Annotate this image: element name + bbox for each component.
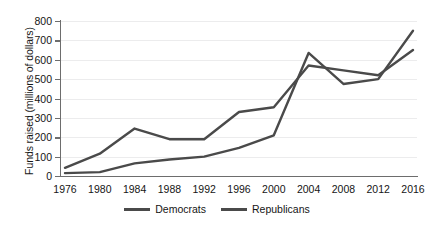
- y-axis-tick: [55, 137, 60, 138]
- y-axis-tick-label: 700: [4, 35, 52, 45]
- x-axis-line: [60, 176, 418, 177]
- legend-item-democrats[interactable]: Democrats: [124, 203, 206, 215]
- y-axis-tick: [55, 60, 60, 61]
- y-axis-tick-label: 0: [4, 171, 52, 181]
- y-axis-tick-labels: 0100200300400500600700800: [0, 0, 52, 233]
- legend-label: Democrats: [155, 203, 206, 215]
- legend-swatch-icon: [124, 208, 150, 211]
- y-axis-tick-label: 400: [4, 94, 52, 104]
- legend-label: Republicans: [252, 203, 310, 215]
- series-lines: [61, 21, 417, 176]
- y-axis-tick: [55, 118, 60, 119]
- y-axis-tick-label: 300: [4, 113, 52, 123]
- y-axis-tick-label: 800: [4, 16, 52, 26]
- y-axis-tick: [55, 99, 60, 100]
- y-axis-tick: [55, 40, 60, 41]
- y-axis-tick-label: 100: [4, 152, 52, 162]
- y-axis-tick-label: 600: [4, 55, 52, 65]
- series-line-democrats: [65, 31, 413, 173]
- y-axis-tick-label: 200: [4, 132, 52, 142]
- y-axis-tick: [55, 79, 60, 80]
- y-axis-tick: [55, 21, 60, 22]
- chart-legend: DemocratsRepublicans: [0, 203, 434, 215]
- series-line-republicans: [65, 50, 413, 168]
- y-axis-tick: [55, 157, 60, 158]
- y-axis-tick-label: 500: [4, 74, 52, 84]
- y-axis-tick: [55, 176, 60, 177]
- legend-item-republicans[interactable]: Republicans: [221, 203, 310, 215]
- legend-swatch-icon: [221, 208, 247, 211]
- x-axis-tick-label: 2016: [393, 183, 433, 195]
- chart-figure: Funds raised (millions of dollars) 01002…: [0, 0, 434, 233]
